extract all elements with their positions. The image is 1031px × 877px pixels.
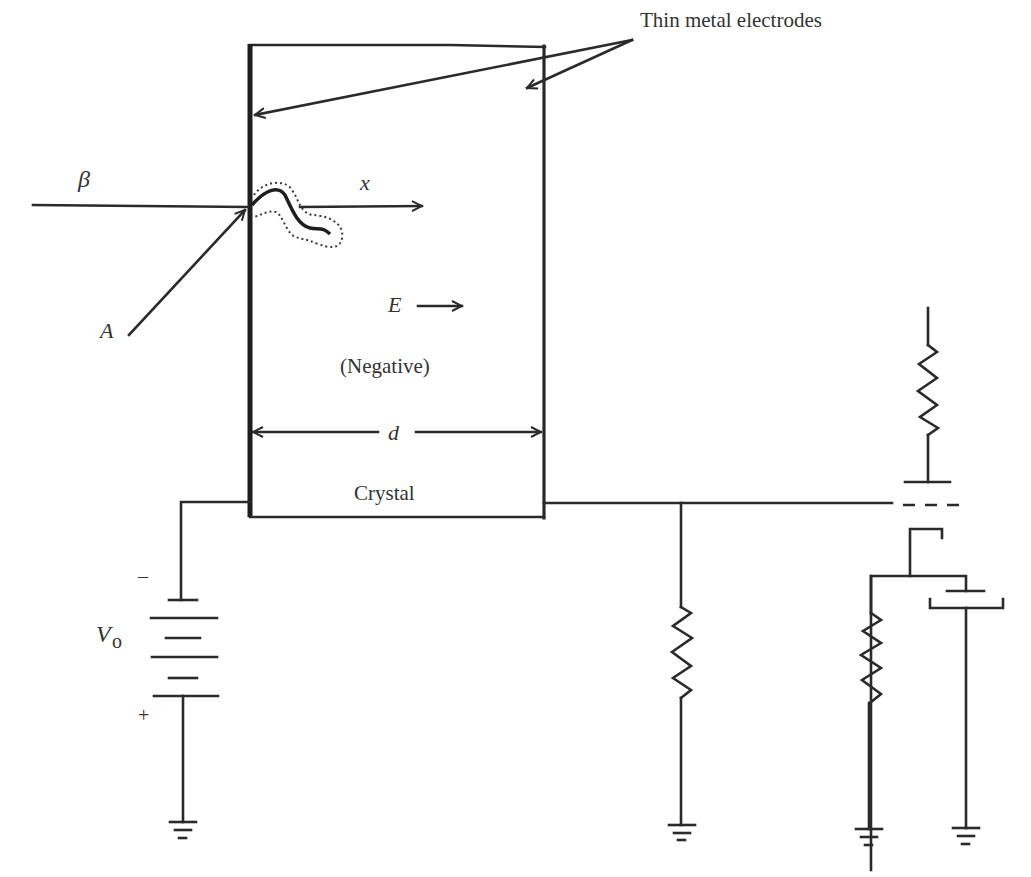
- battery-voltage-label: V: [96, 621, 113, 647]
- minus-sign: –: [137, 565, 149, 587]
- crystal: [250, 44, 545, 518]
- crystal-label: Crystal: [354, 481, 415, 505]
- alpha-ray: [129, 210, 245, 335]
- ionization-track: [252, 190, 330, 234]
- ground-icon: [669, 825, 695, 840]
- distance-label: d: [388, 420, 400, 445]
- plus-sign: +: [138, 704, 149, 726]
- vacuum-tube: [871, 529, 1003, 870]
- plate-resistor: [905, 308, 950, 482]
- field-label: E: [387, 292, 402, 317]
- battery: [151, 502, 250, 822]
- beta-label: β: [77, 166, 90, 192]
- alpha-label: A: [98, 318, 114, 343]
- electrode-callout-arrows: [255, 40, 632, 115]
- circuit-diagram: Thin metal electrodes β x A E (Negative)…: [0, 0, 1031, 877]
- x-axis-arrow: [300, 206, 422, 207]
- beta-ray: [33, 205, 248, 207]
- x-label: x: [359, 170, 370, 195]
- load-resistor: [672, 503, 692, 825]
- ground-icon: [856, 829, 882, 845]
- electrodes-label: Thin metal electrodes: [640, 8, 822, 32]
- ground-icon: [953, 828, 979, 844]
- ground-icon: [170, 822, 196, 838]
- battery-voltage-subscript: o: [112, 630, 122, 652]
- polarity-label: (Negative): [340, 354, 430, 378]
